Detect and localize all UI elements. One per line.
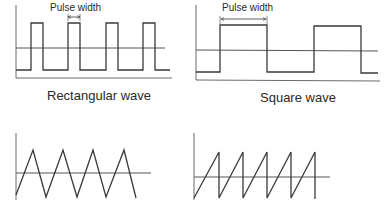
caption-square-wave: Square wave	[260, 90, 336, 105]
triangle-wave-panel	[16, 133, 151, 200]
triangle-waveform	[16, 150, 136, 198]
square-waveform	[196, 25, 378, 73]
x-axis	[196, 80, 380, 81]
pulse-width-label-square: Pulse width	[222, 2, 273, 13]
pulse-width-label-rectangular: Pulse width	[50, 2, 101, 13]
sawtooth-waveform	[194, 152, 315, 199]
square-wave-panel	[196, 5, 380, 81]
rectangular-waveform	[16, 23, 170, 70]
caption-rectangular-wave: Rectangular wave	[47, 88, 151, 103]
center-line	[196, 50, 378, 51]
sawtooth-wave-panel	[194, 133, 330, 200]
rectangular-wave-panel	[16, 5, 172, 78]
